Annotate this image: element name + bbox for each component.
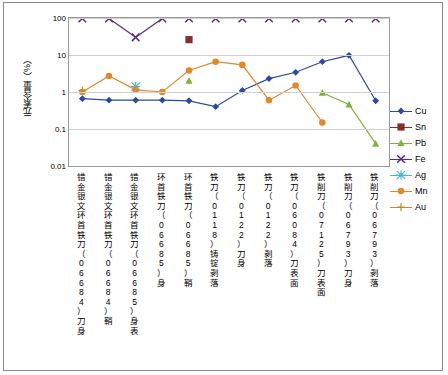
x-tick-label: 铁刀（0118）铸锭剥落 bbox=[209, 173, 220, 288]
data-point bbox=[212, 103, 219, 110]
data-point bbox=[132, 97, 139, 104]
data-point bbox=[186, 67, 193, 74]
legend-marker-sn-icon bbox=[390, 122, 412, 132]
x-tick-label: 铁刀（0122）剥落 bbox=[263, 173, 274, 269]
legend-label: Ag bbox=[415, 170, 426, 180]
data-point bbox=[132, 34, 140, 42]
x-tick-label: 环首铁刀（06685）身 bbox=[156, 173, 167, 288]
legend-marker-pb-icon bbox=[390, 138, 412, 148]
y-axis-ticks: 0.010.1110100 bbox=[34, 17, 66, 167]
data-point bbox=[239, 62, 246, 69]
legend-label: Fe bbox=[415, 154, 426, 164]
legend-item-cu[interactable]: Cu bbox=[390, 103, 440, 119]
data-point bbox=[212, 58, 219, 65]
x-tick-label: 铁刀（0122）刀身 bbox=[236, 173, 247, 269]
legend-item-sn[interactable]: Sn bbox=[390, 119, 440, 135]
data-point bbox=[292, 69, 299, 76]
data-point bbox=[319, 58, 326, 65]
gridline bbox=[69, 129, 389, 130]
legend-label: Sn bbox=[415, 122, 426, 132]
data-point bbox=[397, 203, 405, 211]
legend-label: Au bbox=[415, 202, 426, 212]
data-point bbox=[266, 97, 273, 104]
series-line bbox=[82, 19, 375, 38]
x-tick-label: 铁削刀（06793）剥落 bbox=[369, 173, 380, 288]
x-tick-label: 错金银文环首铁刀（06684）刀身 bbox=[76, 173, 87, 336]
legend-item-au[interactable]: Au bbox=[390, 199, 440, 215]
series-line bbox=[322, 93, 375, 144]
data-point bbox=[398, 108, 405, 115]
legend-marker-ag-icon bbox=[390, 170, 412, 180]
data-point bbox=[106, 97, 113, 104]
gridline bbox=[69, 92, 389, 93]
data-point bbox=[398, 188, 405, 195]
legend-marker-mn-icon bbox=[390, 186, 412, 196]
data-point bbox=[292, 82, 299, 89]
data-point bbox=[186, 97, 193, 104]
data-point bbox=[345, 101, 352, 108]
gridline bbox=[69, 55, 389, 56]
legend-label: Pb bbox=[415, 138, 426, 148]
chart-legend: CuSnPbFeAgMnAu bbox=[390, 103, 440, 215]
data-point bbox=[397, 155, 405, 163]
data-point bbox=[185, 36, 192, 43]
legend-marker-fe-icon bbox=[390, 154, 412, 164]
legend-item-fe[interactable]: Fe bbox=[390, 151, 440, 167]
legend-marker-cu-icon bbox=[390, 106, 412, 116]
y-tick-label: 10 bbox=[40, 51, 66, 60]
x-tick-label: 环首铁刀（06685）鞘 bbox=[183, 173, 194, 288]
data-point bbox=[396, 170, 405, 179]
data-point bbox=[159, 97, 166, 104]
legend-label: Mn bbox=[415, 186, 428, 196]
data-point bbox=[319, 119, 326, 126]
legend-item-mn[interactable]: Mn bbox=[390, 183, 440, 199]
legend-item-ag[interactable]: Ag bbox=[390, 167, 440, 183]
data-point bbox=[266, 75, 273, 82]
gridline bbox=[69, 18, 389, 19]
data-point bbox=[79, 95, 86, 102]
data-point bbox=[397, 123, 404, 130]
plot-area bbox=[68, 17, 390, 167]
x-tick-label: 铁削刀（06793）刀身 bbox=[343, 173, 354, 288]
legend-marker-au-icon bbox=[390, 202, 412, 212]
x-tick-label: 错金银文环首铁刀（06685）身表 bbox=[129, 173, 140, 336]
chart-frame: 元素含量（%） 0.010.1110100 错金银文环首铁刀（06684）刀身错… bbox=[3, 2, 443, 371]
y-tick-label: 0.1 bbox=[40, 125, 66, 134]
x-tick-label: 铁削刀（07125）刀表面 bbox=[316, 173, 327, 298]
legend-item-pb[interactable]: Pb bbox=[390, 135, 440, 151]
legend-label: Cu bbox=[415, 106, 427, 116]
data-point bbox=[397, 139, 404, 146]
y-tick-label: 100 bbox=[40, 14, 66, 23]
data-point bbox=[185, 77, 192, 84]
y-tick-label: 0.01 bbox=[40, 162, 66, 171]
data-point bbox=[106, 73, 113, 80]
x-tick-label: 错金银文环首铁刀（06684）鞘 bbox=[103, 173, 114, 327]
x-tick-label: 铁刀（06084）刀表面 bbox=[289, 173, 300, 288]
data-point bbox=[372, 97, 379, 104]
y-tick-label: 1 bbox=[40, 88, 66, 97]
